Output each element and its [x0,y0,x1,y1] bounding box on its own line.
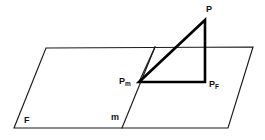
geometry-diagram: P Pm PF F m [0,0,265,140]
label-point-Pm: Pm [119,77,131,86]
triangle-P-Pm-PF [139,20,205,82]
label-Pm-subscript: m [125,80,131,87]
label-point-PF: PF [209,80,219,89]
label-point-P: P [206,5,212,14]
label-plane-F: F [24,116,30,125]
diagram-canvas [0,0,265,140]
label-line-m: m [111,113,119,122]
thin-edge-top-to-Pm [139,47,155,82]
label-PF-subscript: F [215,83,219,90]
